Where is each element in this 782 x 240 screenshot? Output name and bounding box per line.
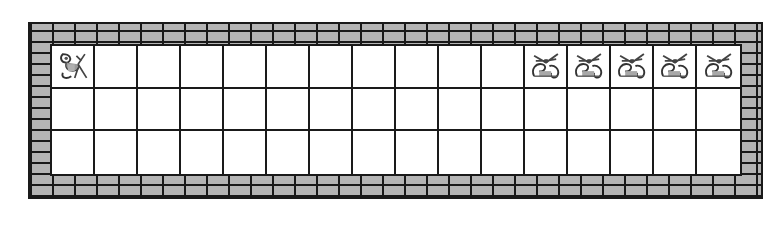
grid-cell[interactable] — [568, 46, 611, 89]
grid-cell[interactable] — [525, 131, 568, 174]
grid-cell[interactable] — [353, 131, 396, 174]
grid-cell[interactable] — [654, 89, 697, 132]
grid-cell[interactable] — [52, 131, 95, 174]
grid-cell[interactable] — [654, 46, 697, 89]
grid-cell[interactable] — [611, 46, 654, 89]
grid-cell[interactable] — [310, 89, 353, 132]
grid-cell[interactable] — [439, 89, 482, 132]
grid-cell[interactable] — [95, 131, 138, 174]
pig-icon — [702, 49, 736, 83]
grid-cell[interactable] — [611, 131, 654, 174]
grid-cell[interactable] — [95, 46, 138, 89]
grid-cell[interactable] — [310, 46, 353, 89]
grid-cell[interactable] — [482, 131, 525, 174]
grid-cell[interactable] — [224, 89, 267, 132]
grid-cell[interactable] — [224, 131, 267, 174]
grid-cell[interactable] — [525, 89, 568, 132]
grid-cell[interactable] — [568, 89, 611, 132]
grid-cell[interactable] — [568, 131, 611, 174]
grid-cell[interactable] — [267, 89, 310, 132]
grid-cell[interactable] — [224, 46, 267, 89]
grid-cell[interactable] — [697, 131, 740, 174]
grid-cell[interactable] — [138, 89, 181, 132]
grid-cell[interactable] — [439, 131, 482, 174]
grid-cell[interactable] — [267, 46, 310, 89]
game-grid — [50, 44, 742, 176]
grid-cell[interactable] — [52, 46, 95, 89]
grid-cell[interactable] — [52, 89, 95, 132]
grid-cell[interactable] — [181, 131, 224, 174]
pig-icon — [615, 49, 649, 83]
grid-cell[interactable] — [310, 131, 353, 174]
grid-cell[interactable] — [138, 46, 181, 89]
grid-cell[interactable] — [396, 46, 439, 89]
pig-icon — [658, 49, 692, 83]
monkey-icon — [56, 49, 90, 83]
grid-cell[interactable] — [396, 89, 439, 132]
grid-cell[interactable] — [396, 131, 439, 174]
grid-cell[interactable] — [353, 46, 396, 89]
grid-cell[interactable] — [181, 89, 224, 132]
grid-cell[interactable] — [138, 131, 181, 174]
pig-icon — [572, 49, 606, 83]
grid-cell[interactable] — [482, 46, 525, 89]
grid-cell[interactable] — [525, 46, 568, 89]
grid-cell[interactable] — [697, 89, 740, 132]
grid-cell[interactable] — [95, 89, 138, 132]
grid-cell[interactable] — [482, 89, 525, 132]
grid-cell[interactable] — [353, 89, 396, 132]
grid-cell[interactable] — [654, 131, 697, 174]
pig-icon — [529, 49, 563, 83]
grid-cell[interactable] — [181, 46, 224, 89]
grid-cell[interactable] — [267, 131, 310, 174]
grid-cell[interactable] — [697, 46, 740, 89]
grid-cell[interactable] — [611, 89, 654, 132]
grid-cell[interactable] — [439, 46, 482, 89]
